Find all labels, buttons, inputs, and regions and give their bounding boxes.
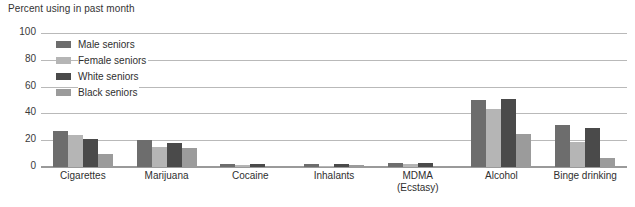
bar bbox=[486, 109, 501, 167]
bar bbox=[555, 125, 570, 167]
bar bbox=[98, 154, 113, 167]
x-category-label: Alcohol bbox=[460, 170, 544, 206]
y-tick-label-0: 0 bbox=[6, 160, 36, 171]
bar bbox=[349, 165, 364, 167]
legend-label: White seniors bbox=[78, 71, 141, 82]
legend-item: Black seniors bbox=[56, 86, 148, 99]
bar bbox=[137, 140, 152, 167]
x-category-label: Marijuana bbox=[125, 170, 209, 206]
x-category-label: Binge drinking bbox=[543, 170, 627, 206]
bar bbox=[433, 166, 448, 167]
bar bbox=[182, 148, 197, 167]
bar-group bbox=[460, 33, 544, 167]
legend-swatch-icon bbox=[56, 41, 71, 48]
bar bbox=[68, 135, 83, 167]
bar-group bbox=[208, 33, 292, 167]
bar bbox=[304, 164, 319, 167]
x-category-label-line: Marijuana bbox=[125, 170, 209, 182]
bar bbox=[585, 128, 600, 167]
bar bbox=[152, 147, 167, 167]
bar bbox=[471, 100, 486, 167]
bars bbox=[555, 33, 615, 167]
bar bbox=[250, 164, 265, 167]
legend-item: White seniors bbox=[56, 70, 148, 83]
legend-swatch-icon bbox=[56, 73, 71, 80]
x-category-label: MDMA(Ecstasy) bbox=[376, 170, 460, 206]
y-tick-label-100: 100 bbox=[6, 26, 36, 37]
y-tick-label-60: 60 bbox=[6, 80, 36, 91]
legend-swatch-icon bbox=[56, 89, 71, 96]
bar bbox=[418, 163, 433, 167]
bars bbox=[220, 33, 280, 167]
x-category-label-line: (Ecstasy) bbox=[376, 182, 460, 194]
bar bbox=[167, 143, 182, 167]
bar-group bbox=[376, 33, 460, 167]
bars bbox=[471, 33, 531, 167]
bar bbox=[265, 166, 280, 167]
bar bbox=[334, 164, 349, 167]
x-category-label-line: Alcohol bbox=[460, 170, 544, 182]
legend-item: Female seniors bbox=[56, 54, 148, 67]
y-tick-label-40: 40 bbox=[6, 106, 36, 117]
bar bbox=[53, 131, 68, 167]
bars bbox=[388, 33, 448, 167]
x-category-label-line: MDMA bbox=[376, 170, 460, 182]
bar bbox=[600, 158, 615, 167]
y-tick-label-20: 20 bbox=[6, 133, 36, 144]
y-tick-label-80: 80 bbox=[6, 53, 36, 64]
bar bbox=[83, 139, 98, 167]
x-category-label: Cigarettes bbox=[41, 170, 125, 206]
x-category-label-line: Cigarettes bbox=[41, 170, 125, 182]
bar bbox=[388, 163, 403, 167]
legend-label: Male seniors bbox=[78, 39, 137, 50]
bar-group bbox=[292, 33, 376, 167]
bar-chart: Percent using in past month 020406080100… bbox=[0, 0, 635, 207]
x-category-label-line: Inhalants bbox=[292, 170, 376, 182]
legend-item: Male seniors bbox=[56, 38, 148, 51]
bar bbox=[319, 166, 334, 167]
bar bbox=[403, 164, 418, 167]
bar bbox=[220, 164, 235, 167]
bar-group bbox=[543, 33, 627, 167]
legend-label: Black seniors bbox=[78, 87, 139, 98]
bar bbox=[235, 165, 250, 167]
chart-legend: Male seniorsFemale seniorsWhite seniorsB… bbox=[56, 38, 148, 99]
bar bbox=[516, 134, 531, 168]
gridline-0 bbox=[41, 167, 627, 168]
legend-label: Female seniors bbox=[78, 55, 148, 66]
x-category-label: Inhalants bbox=[292, 170, 376, 206]
chart-title: Percent using in past month bbox=[8, 3, 135, 14]
legend-swatch-icon bbox=[56, 57, 71, 64]
x-category-label-line: Binge drinking bbox=[543, 170, 627, 182]
x-category-label: Cocaine bbox=[208, 170, 292, 206]
bar bbox=[501, 99, 516, 167]
bars bbox=[304, 33, 364, 167]
x-category-label-line: Cocaine bbox=[208, 170, 292, 182]
bar bbox=[570, 142, 585, 167]
x-axis-category-labels: CigarettesMarijuanaCocaineInhalantsMDMA(… bbox=[41, 170, 627, 206]
